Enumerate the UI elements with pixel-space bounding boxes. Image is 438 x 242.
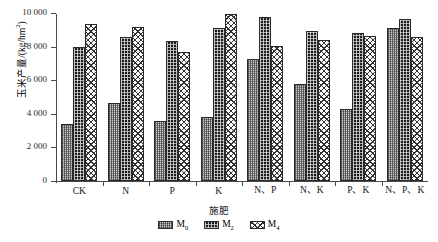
x-axis-tick: [382, 182, 383, 186]
bar-group-bars: [149, 13, 196, 181]
bar-m0-CK[interactable]: [61, 124, 73, 181]
bar-m2-P[interactable]: [166, 41, 178, 181]
bar-group-bars: [335, 13, 382, 181]
legend-item-m2[interactable]: M2: [204, 219, 234, 231]
bar-m4-P-K[interactable]: [364, 36, 376, 181]
y-axis-title: 玉米产量/(kg/hm2): [12, 0, 27, 140]
x-axis-title: 施肥: [0, 203, 438, 217]
bar-group: N、P、K: [382, 13, 429, 181]
bar-m0-P[interactable]: [154, 121, 166, 181]
x-axis-tick: [103, 182, 104, 186]
x-axis-category-label: P: [170, 186, 175, 196]
x-axis-category-label: N、K: [300, 182, 324, 196]
bar-group: P、K: [335, 13, 382, 181]
bar-m4-N-P-K[interactable]: [411, 37, 423, 181]
x-axis-category-label: N、P、K: [385, 182, 424, 196]
legend-item-m0[interactable]: M0: [158, 219, 188, 231]
bar-m0-N-K[interactable]: [294, 84, 306, 181]
legend-label-m4: M4: [268, 219, 280, 231]
bar-group: N: [103, 13, 150, 181]
bar-group-bars: [196, 13, 243, 181]
chart-legend: M0M2M4: [0, 219, 438, 231]
bar-m0-N-P-K[interactable]: [387, 28, 399, 181]
bar-m4-K[interactable]: [225, 14, 237, 181]
bar-group: N、P: [242, 13, 289, 181]
bar-m4-P[interactable]: [178, 52, 190, 181]
x-axis-category-label: N: [122, 186, 129, 196]
legend-label-m0: M0: [176, 219, 188, 231]
legend-swatch-m0: [158, 221, 173, 229]
bar-m2-N-P-K[interactable]: [399, 19, 411, 181]
bar-group: CK: [56, 13, 103, 181]
bar-m2-N-K[interactable]: [306, 31, 318, 181]
legend-label-m2: M2: [222, 219, 234, 231]
x-axis-category-label: N、P: [254, 182, 276, 196]
bar-m2-N-P[interactable]: [259, 17, 271, 181]
bar-group-bars: [382, 13, 429, 181]
bar-m2-K[interactable]: [213, 28, 225, 181]
plot-area: 02 0004 0006 0008 00010 000 CKNPKN、PN、KP…: [56, 14, 428, 182]
bar-m0-P-K[interactable]: [340, 109, 352, 181]
bar-chart-figure: 玉米产量/(kg/hm2) 02 0004 0006 0008 00010 00…: [0, 0, 438, 242]
x-axis-tick: [242, 182, 243, 186]
bar-group: N、K: [289, 13, 336, 181]
x-axis-tick: [335, 182, 336, 186]
x-axis-category-label: CK: [73, 186, 86, 196]
x-axis-category-label: K: [215, 186, 222, 196]
bar-group-bars: [103, 13, 150, 181]
bar-m0-N-P[interactable]: [247, 59, 259, 181]
x-axis-tick: [196, 182, 197, 186]
x-axis-tick: [149, 182, 150, 186]
y-axis-tick-label: 0: [43, 175, 48, 185]
bar-m0-K[interactable]: [201, 117, 213, 181]
legend-swatch-m4: [250, 221, 265, 229]
x-axis-tick: [289, 182, 290, 186]
y-axis-tick-label: 8 000: [27, 41, 47, 51]
x-axis-category-label: P、K: [347, 182, 369, 196]
bar-m2-N[interactable]: [120, 37, 132, 181]
bar-m4-N-K[interactable]: [318, 40, 330, 181]
legend-swatch-m2: [204, 221, 219, 229]
y-axis-tick: 0: [51, 181, 56, 182]
y-axis-title-tail: ): [17, 21, 27, 24]
y-axis-tick-label: 4 000: [27, 108, 47, 118]
y-axis-tick-label: 6 000: [27, 74, 47, 84]
bar-m2-CK[interactable]: [73, 47, 85, 181]
y-axis-tick-label: 2 000: [27, 141, 47, 151]
bar-m0-N[interactable]: [108, 103, 120, 181]
y-axis-title-superscript: 2: [14, 25, 21, 28]
bar-group-bars: [56, 13, 103, 181]
y-axis-title-main: 玉米产量/(kg/hm: [17, 28, 27, 98]
bar-group-bars: [242, 13, 289, 181]
bar-m4-CK[interactable]: [85, 24, 97, 181]
bar-group: K: [196, 13, 243, 181]
bar-group: P: [149, 13, 196, 181]
bar-m2-P-K[interactable]: [352, 33, 364, 181]
bar-group-bars: [289, 13, 336, 181]
y-axis-tick-label: 10 000: [22, 7, 47, 17]
legend-item-m4[interactable]: M4: [250, 219, 280, 231]
bar-m4-N-P[interactable]: [271, 46, 283, 181]
bar-m4-N[interactable]: [132, 27, 144, 181]
